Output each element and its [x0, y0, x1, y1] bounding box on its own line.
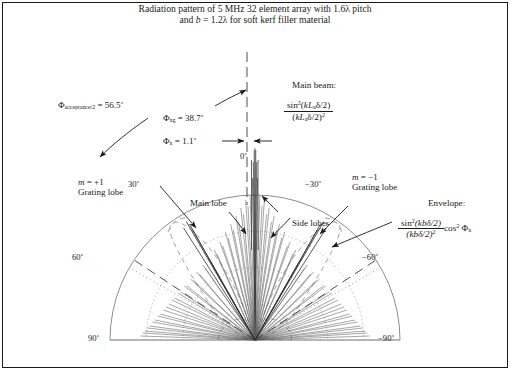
figure-radiation-pattern: Radiation pattern of 5 MHz 32 element ar…	[0, 0, 510, 370]
main-beam-heading: Main beam:	[292, 80, 336, 90]
side-lobes-label: Side lobes	[292, 218, 329, 228]
phi-xg-leader	[215, 90, 246, 106]
polar-plot-canvas	[0, 0, 510, 370]
tick-0: 0˚	[240, 152, 247, 162]
tick-90: 90˚	[88, 334, 99, 344]
tick-minus-30: −30˚	[305, 180, 321, 190]
main-beam-formula: sin2(kLaδ/2) (kLaδ/2)2	[284, 100, 333, 123]
grating-lobe-plus-label: m = +1 Grating lobe	[78, 177, 123, 197]
leader-arrows	[100, 90, 392, 247]
grating-lobe-minus-label: m = −1 Grating lobe	[352, 172, 397, 192]
acceptance-leader	[100, 118, 148, 157]
envelope-leader	[332, 222, 392, 247]
tick-minus-90: −90˚	[378, 334, 394, 344]
title-line-2: and b = 1.2λ for soft kerf filler materi…	[0, 15, 510, 26]
side-lobe-leader-lower	[271, 218, 290, 238]
figure-title: Radiation pattern of 5 MHz 32 element ar…	[0, 4, 510, 25]
phi-x-label: Φx = 1.1˚	[163, 136, 196, 147]
envelope-formula: sin2(kbδ/2) (kbδ/2)2 cos2 Φx	[398, 218, 471, 240]
envelope-heading: Envelope:	[428, 198, 465, 208]
title-line-1: Radiation pattern of 5 MHz 32 element ar…	[139, 3, 372, 14]
phi-xg-label: Φxg = 38.7˚	[163, 113, 204, 124]
tick-30: 30˚	[128, 180, 139, 190]
tick-minus-60: −60˚	[362, 253, 378, 263]
tick-60: 60˚	[72, 253, 83, 263]
main-lobe-label: Main lobe	[190, 198, 227, 208]
acceptance-angle-label: Φacceptance/2 = 56.5˚	[58, 100, 124, 111]
